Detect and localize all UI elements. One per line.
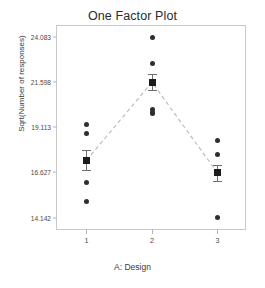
y-tick: 24.083 [31,34,57,41]
y-tick-label: 14.142 [31,214,51,221]
plot-area: 14.14216.62719.11321.59824.083 123 [56,25,246,230]
y-tick: 21.598 [31,79,57,86]
x-tick-label: 2 [150,236,154,245]
y-axis-label: Sqrt(Number of responses) [17,19,26,149]
y-tick-label: 21.598 [31,79,51,86]
x-tick: 1 [84,229,88,245]
mean-marker [214,169,221,176]
x-tick-label: 3 [216,236,220,245]
y-tick-label: 16.627 [31,169,51,176]
x-axis-label: A: Design [0,262,265,272]
y-tick: 16.627 [31,169,57,176]
mean-marker [149,79,156,86]
y-tick-label: 19.113 [31,124,51,131]
y-tick: 14.142 [31,214,57,221]
mean-marker [83,157,90,164]
x-tick: 3 [216,229,220,245]
chart-title: One Factor Plot [0,9,265,23]
y-tick-label: 24.083 [31,34,51,41]
one-factor-plot: One Factor Plot Sqrt(Number of responses… [0,0,265,288]
y-tick: 19.113 [31,124,57,131]
x-tick-label: 1 [84,236,88,245]
group-mean-markers [57,26,245,229]
x-tick: 2 [150,229,154,245]
